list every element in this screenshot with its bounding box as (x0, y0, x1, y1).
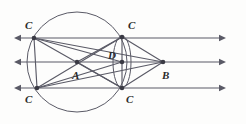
ray-bottom-arrowhead-right (219, 85, 226, 91)
geometry-figure: CCCCADB (0, 0, 246, 124)
seg-Ctl-Cbl (34, 38, 37, 88)
point-label-C_top_left: C (25, 20, 32, 31)
seg-Cbr-A (77, 62, 122, 88)
point-label-C_top_right: C (128, 20, 135, 31)
point-marker-C_bottom_left (35, 86, 40, 91)
point-label-D: D (108, 50, 116, 61)
point-label-C_bottom_right: C (126, 94, 133, 105)
point-marker-C_top_left (32, 36, 37, 41)
point-marker-C_top_right (120, 35, 125, 40)
ray-top-arrowhead-right (219, 35, 226, 41)
point-label-C_bottom_left: C (25, 94, 32, 105)
point-marker-C_bottom_right (120, 86, 125, 91)
seg-Cbl-D (37, 62, 122, 88)
ray-middle-arrowhead-left (14, 59, 21, 65)
point-label-A: A (72, 70, 79, 81)
ray-middle-arrowhead-right (219, 59, 226, 65)
point-label-B: B (162, 70, 169, 81)
point-marker-D (120, 60, 125, 65)
ray-bottom-arrowhead-left (14, 85, 21, 91)
ray-top-arrowhead-left (14, 35, 21, 41)
point-marker-B (161, 60, 166, 65)
point-marker-A (75, 60, 80, 65)
geometry-canvas (0, 0, 246, 124)
